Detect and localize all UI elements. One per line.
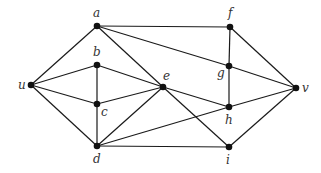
- node-g: [226, 63, 233, 70]
- node-label-e: e: [163, 69, 170, 83]
- node-b: [94, 62, 101, 69]
- edge-d-i: [97, 146, 229, 147]
- node-e: [160, 84, 167, 91]
- node-v: [293, 85, 300, 92]
- edge-i-v: [229, 88, 296, 147]
- edge-f-g: [229, 27, 230, 66]
- edge-b-e: [97, 65, 163, 87]
- edge-a-g: [97, 26, 229, 66]
- node-label-g: g: [217, 66, 225, 80]
- edge-u-a: [31, 26, 97, 85]
- edge-u-b: [31, 65, 97, 85]
- graph-diagram: afbguevchdi: [0, 0, 321, 173]
- node-label-d: d: [93, 152, 101, 166]
- node-c: [94, 101, 101, 108]
- node-h: [226, 104, 233, 111]
- edge-e-i: [163, 87, 229, 147]
- node-f: [227, 24, 234, 31]
- edge-e-h: [163, 87, 229, 107]
- node-d: [94, 143, 101, 150]
- node-label-h: h: [225, 113, 233, 127]
- edge-f-v: [230, 27, 296, 88]
- edge-a-f: [97, 26, 230, 27]
- node-a: [94, 23, 101, 30]
- node-label-f: f: [227, 6, 235, 20]
- node-label-c: c: [101, 105, 108, 119]
- edge-d-h: [97, 107, 229, 146]
- edge-g-v: [229, 66, 296, 88]
- node-i: [226, 144, 233, 151]
- node-label-a: a: [93, 6, 100, 20]
- node-u: [28, 82, 35, 89]
- node-label-i: i: [226, 153, 230, 167]
- edge-a-e: [97, 26, 163, 87]
- node-label-u: u: [18, 78, 26, 92]
- node-label-v: v: [302, 81, 309, 95]
- node-label-b: b: [93, 45, 101, 59]
- nodes-group: [28, 23, 300, 151]
